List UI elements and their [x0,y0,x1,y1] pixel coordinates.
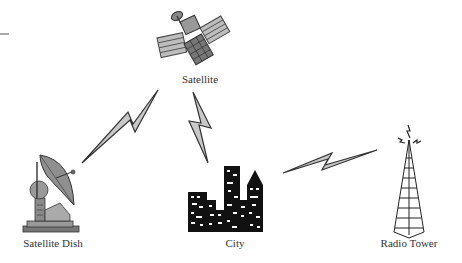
node-label-radio-tower: Radio Tower [381,237,438,249]
city-skyline-icon [188,166,263,232]
lightning-bolt-icon [82,90,158,163]
node-label-satellite-dish: Satellite Dish [23,237,83,249]
node-label-city: City [226,237,245,249]
lightning-bolt-icon [189,92,211,163]
satellite-icon [157,10,230,65]
node-label-satellite: Satellite [182,73,218,85]
radio-tower-icon [394,125,424,238]
satellite-dish-icon [23,155,79,232]
lightning-bolt-icon [283,150,377,173]
diagram-canvas: Satellite Satellite Dish [0,0,462,263]
